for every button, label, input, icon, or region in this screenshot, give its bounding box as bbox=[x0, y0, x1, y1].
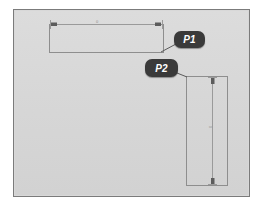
callout-badge-p1[interactable]: P1 bbox=[174, 31, 205, 48]
drawing-canvas bbox=[0, 0, 263, 214]
dimension-value-vertical: 0 bbox=[209, 126, 213, 128]
drawing-viewport: 0 0 P1 P2 bbox=[0, 0, 263, 214]
shape-vertical-rectangle[interactable] bbox=[187, 77, 228, 186]
dimension-arrow-right-icon bbox=[155, 23, 161, 27]
dimension-arrow-bottom-icon bbox=[211, 178, 215, 184]
dimension-value-horizontal: 0 bbox=[96, 20, 98, 24]
dimension-arrow-left-icon bbox=[51, 23, 57, 27]
shape-horizontal-rectangle[interactable] bbox=[50, 25, 164, 53]
callout-badge-p2[interactable]: P2 bbox=[145, 59, 178, 77]
dimension-arrow-top-icon bbox=[211, 78, 215, 84]
